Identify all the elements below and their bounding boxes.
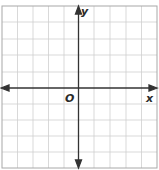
y-axis-down-arrow-icon [76, 160, 82, 168]
x-axis-label: x [146, 93, 153, 104]
grid-border [2, 6, 157, 168]
origin-label: O [65, 93, 74, 104]
y-axis [76, 6, 82, 168]
y-axis-label: y [81, 6, 88, 17]
grid-lines [2, 6, 157, 168]
x-axis-right-arrow-icon [149, 85, 157, 91]
coordinate-grid [0, 0, 159, 170]
